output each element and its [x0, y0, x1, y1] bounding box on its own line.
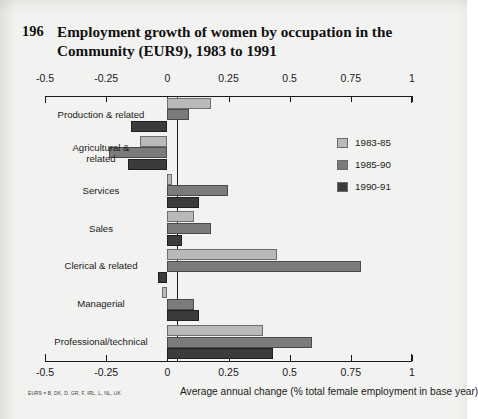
bar-1990-91-6: [167, 348, 272, 359]
category-label-1: Agricultural & related: [28, 141, 174, 164]
category-label-6: Professional/technical: [28, 336, 174, 348]
x-axis-caption: Average annual change (% total female em…: [180, 386, 478, 397]
axis-tick-top-0: [45, 96, 46, 102]
axis-tick-bot-5: [351, 355, 352, 361]
axis-tick-bot-0: [45, 355, 46, 361]
legend-label-1983-85: 1983-85: [355, 137, 391, 148]
legend-swatch-icon-1985-90: [337, 160, 348, 170]
legend-swatch-icon-1983-85: [337, 138, 348, 148]
tick-label-0p75: 0.75: [341, 366, 361, 378]
legend-swatch-icon-1990-91: [337, 182, 348, 192]
axis-bottom-line: [45, 361, 412, 362]
bar-1990-91-5: [167, 310, 199, 321]
bar-1983-85-4: [167, 249, 277, 260]
axis-tick-top-1: [106, 96, 107, 102]
bar-1983-85-6: [167, 325, 262, 336]
tick-label-0p5: 0.5: [282, 72, 297, 84]
axis-tick-top-6: [412, 96, 413, 102]
figure-number: 196: [22, 22, 44, 41]
axis-tick-bot-4: [290, 355, 291, 361]
category-label-0: Production & related: [28, 109, 174, 121]
tick-label-0p25: 0.25: [218, 72, 238, 84]
legend-item-1990-91: 1990-91: [337, 178, 391, 195]
category-label-2: Services: [28, 185, 174, 197]
bar-1985-90-2: [167, 185, 228, 196]
legend-label-1990-91: 1990-91: [355, 181, 391, 192]
bar-1983-85-5: [162, 287, 167, 298]
tick-label-0: 0: [164, 72, 170, 84]
category-label-5: Managerial: [28, 298, 174, 310]
chart-legend: 1983-851985-901990-91: [337, 134, 391, 200]
tick-label-0: 0: [164, 366, 170, 378]
axis-tick-top-4: [290, 96, 291, 102]
bar-1983-85-2: [167, 174, 172, 185]
tick-label-neg0p5: -0.5: [36, 72, 54, 84]
category-label-4: Clerical & related: [28, 261, 174, 273]
tick-label-0p75: 0.75: [341, 72, 361, 84]
axis-tick-bot-1: [106, 355, 107, 361]
legend-label-1985-90: 1985-90: [355, 159, 391, 170]
tick-label-0p25: 0.25: [218, 366, 238, 378]
bar-1985-90-6: [167, 337, 311, 348]
axis-tick-top-5: [351, 96, 352, 102]
figure-title-block: 196 Employment growth of women by occupa…: [22, 22, 442, 60]
tick-label-neg0p5: -0.5: [36, 366, 54, 378]
legend-item-1983-85: 1983-85: [337, 134, 391, 151]
bar-1983-85-3: [167, 211, 194, 222]
axis-tick-top-3: [229, 96, 230, 102]
tick-label-1: 1: [409, 72, 415, 84]
bar-1990-91-0: [131, 121, 168, 132]
legend-item-1985-90: 1985-90: [337, 156, 391, 173]
bar-1990-91-2: [167, 197, 199, 208]
page-title: Employment growth of women by occupation…: [57, 22, 442, 60]
bar-1990-91-3: [167, 235, 182, 246]
tick-label-0p5: 0.5: [282, 366, 297, 378]
figure-footnote: EUR9 = B, DK, D, GR, F, IRL, L, NL, UK: [28, 391, 121, 396]
axis-tick-bot-6: [412, 355, 413, 361]
bar-1985-90-4: [167, 261, 360, 272]
category-label-3: Sales: [28, 223, 174, 235]
bar-1983-85-0: [167, 98, 211, 109]
tick-label-neg0p25: -0.25: [94, 72, 118, 84]
tick-label-1: 1: [409, 366, 415, 378]
bar-1990-91-4: [158, 272, 168, 283]
tick-label-neg0p25: -0.25: [94, 366, 118, 378]
